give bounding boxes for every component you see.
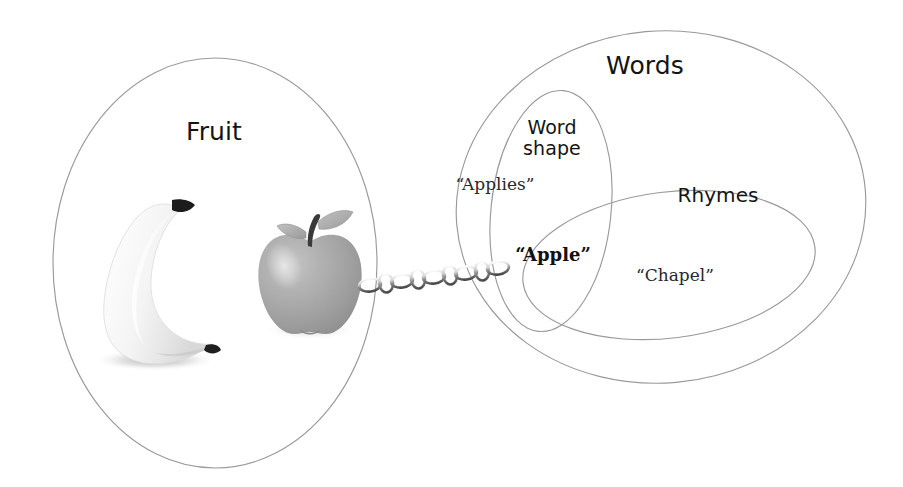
banana-tip-bottom [204, 344, 221, 353]
banana-stem-top [172, 199, 195, 212]
set-outlines [53, 14, 881, 468]
token-apple: “Apple” [483, 244, 623, 265]
chain-link-connector [358, 260, 510, 293]
word-shape-set-label: Word shape [492, 117, 612, 160]
diagram-svg-layer [0, 0, 903, 487]
rhymes-set-label: Rhymes [658, 184, 778, 206]
token-chapel: “Chapel” [605, 265, 745, 285]
apple-leaf-right [318, 210, 353, 229]
banana-illustration [93, 199, 221, 371]
apple-illustration [258, 210, 361, 340]
venn-diagram-canvas: Fruit Words Word shape Rhymes “Applies” … [0, 0, 903, 487]
words-set-label: Words [585, 52, 705, 80]
fruit-set-label: Fruit [154, 118, 274, 146]
token-applies: “Applies” [425, 174, 565, 194]
